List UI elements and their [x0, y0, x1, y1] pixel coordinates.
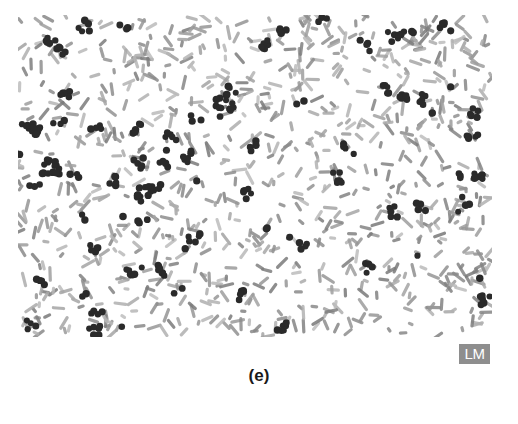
- panel-label: (e): [238, 366, 280, 386]
- bacteria-micrograph: [18, 15, 492, 337]
- micrograph-image: [18, 15, 492, 337]
- lm-badge: LM: [459, 344, 490, 364]
